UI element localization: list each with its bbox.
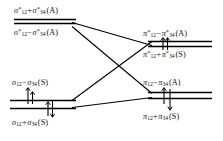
level-label-pi-plus: π12+π34(S) bbox=[143, 113, 179, 122]
symmetry-label-S: (S) bbox=[175, 50, 186, 59]
energy-level-group-upper-right bbox=[148, 42, 212, 47]
subscript-12: 12 bbox=[147, 115, 152, 121]
level-label-sigma-plus: σ12+σ34(S) bbox=[12, 119, 48, 128]
electron-arrow-up-1 bbox=[161, 38, 165, 50]
energy-level-group-upper-left bbox=[14, 20, 76, 24]
correlation-line-sigma-star-plus-to-pi-star-plus bbox=[72, 23, 152, 46]
correlation-line-sigma-minus-to-pi-star-minus bbox=[72, 42, 152, 101]
subscript-34: 34 bbox=[31, 81, 36, 87]
subscript-34: 34 bbox=[169, 53, 174, 59]
symmetry-label-S: (S) bbox=[37, 78, 48, 87]
symmetry-label-S: (S) bbox=[37, 118, 48, 127]
level-label-pi-star-minus: π*12−π*34(A) bbox=[143, 29, 187, 39]
electron-arrow-up-3 bbox=[26, 88, 30, 104]
electron-arrow-group-lower-left-upper bbox=[26, 88, 35, 104]
electron-arrow-up-6 bbox=[162, 88, 166, 104]
mo-correlation-diagram: σ*12+σ*34(A) σ*12−σ*34(A) π*12−π*34(A) π… bbox=[0, 0, 223, 141]
subscript-12: 12 bbox=[147, 81, 152, 87]
level-label-sigma-star-minus: σ*12−σ*34(A) bbox=[14, 28, 58, 38]
energy-level-group-lower-right bbox=[148, 93, 212, 99]
subscript-12: 12 bbox=[16, 121, 21, 127]
electron-arrow-up-4 bbox=[30, 92, 34, 104]
level-label-pi-minus: π12−π34(A) bbox=[143, 79, 181, 88]
correlation-line-sigma-star-minus-to-pi-minus bbox=[72, 27, 152, 94]
level-label-sigma-star-plus: σ*12+σ*34(A) bbox=[14, 6, 58, 16]
correlation-line-group bbox=[72, 23, 152, 108]
symmetry-label-A: (A) bbox=[168, 78, 181, 87]
level-label-pi-star-plus: π*12+π*34(S) bbox=[143, 50, 186, 60]
symmetry-label-S: (S) bbox=[168, 112, 179, 121]
symmetry-label-A: (A) bbox=[45, 28, 58, 37]
subscript-34: 34 bbox=[169, 32, 174, 38]
correlation-line-sigma-plus-to-pi-plus bbox=[72, 98, 152, 108]
subscript-12: 12 bbox=[16, 81, 21, 87]
subscript-34: 34 bbox=[31, 121, 36, 127]
symmetry-label-A: (A) bbox=[175, 29, 188, 38]
symmetry-label-A: (A) bbox=[45, 6, 58, 15]
energy-level-group-lower-left bbox=[10, 101, 76, 109]
level-label-sigma-minus: σ12−σ34(S) bbox=[12, 79, 48, 88]
